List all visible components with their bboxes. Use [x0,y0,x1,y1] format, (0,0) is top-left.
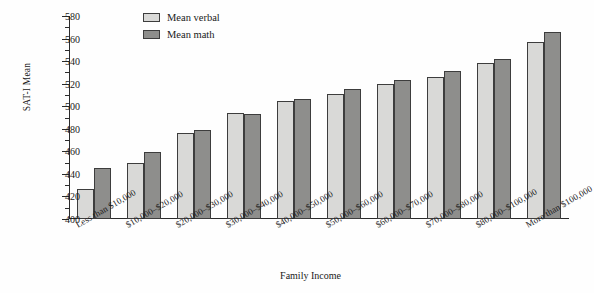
y-tick-label: 560 [46,33,80,44]
y-tick-label: 420 [46,191,80,202]
plot-area [69,16,569,219]
bars-layer [69,16,569,219]
y-tick-label: 540 [46,56,80,67]
bar-group [219,16,269,219]
y-axis-title: SAT-I Mean [22,32,32,142]
y-tick-label: 440 [46,168,80,179]
bar-group [369,16,419,219]
bar-math [444,71,461,219]
bar-group [519,16,569,219]
bar-group [419,16,469,219]
bar-group [319,16,369,219]
y-tick-label: 500 [46,101,80,112]
bar-group [269,16,319,219]
bar-group [469,16,519,219]
y-tick-label: 580 [46,11,80,22]
bar-verbal [177,133,194,219]
y-tick-label: 520 [46,78,80,89]
bar-math [344,89,361,219]
bar-math [394,80,411,219]
y-tick-label: 460 [46,146,80,157]
bar-group [169,16,219,219]
x-axis-title: Family Income [0,270,581,281]
bar-math [544,32,561,219]
bar-verbal [227,113,244,219]
bar-group [119,16,169,219]
y-tick-label: 480 [46,123,80,134]
bar-group [69,16,119,219]
bar-verbal [277,101,294,219]
bar-math [494,59,511,219]
